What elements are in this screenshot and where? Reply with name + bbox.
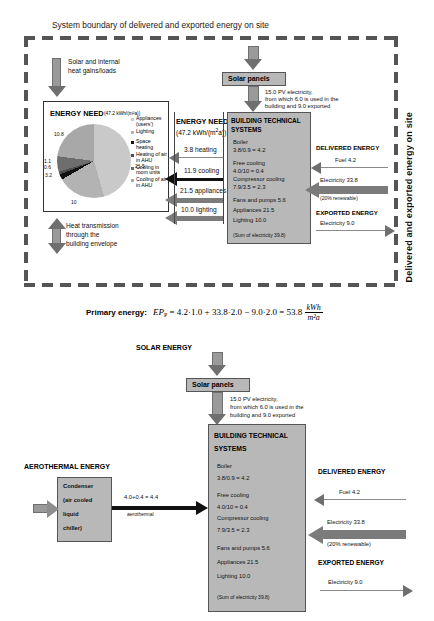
pv-note-line2: from which 6.0 is used in the <box>265 96 338 103</box>
primary-energy-unit-denominator: m²a <box>305 313 323 322</box>
exported-electricity-line-bottom <box>320 590 404 591</box>
bts-bottom-title-line2: SYSTEMS <box>214 445 246 452</box>
solar-input-arrow-head-icon <box>244 59 262 70</box>
gains-arrow-shaft <box>52 58 61 88</box>
bts-bottom-item-boiler-value: 3.8/0.9 = 4.2 <box>217 475 249 482</box>
bts-top-item-compressor-cooling-value: 7.9/3.5 = 2.3 <box>233 184 265 191</box>
energy-need-chart-title: ENERGY NEED <box>50 109 104 118</box>
solar-panels-label: Solar panels <box>228 75 270 82</box>
pv-note-line1-bottom: 15.0 PV electricity, <box>230 396 278 403</box>
flow-appliances-line <box>176 198 224 203</box>
delivered-renewable-label-top: (20% renewable) <box>320 195 358 201</box>
gains-label-line1: Solar and internal <box>68 58 120 66</box>
aerothermal-input-head-icon <box>47 500 59 518</box>
primary-energy-row: Primary energy: EPP = 4.2·1.0 + 33.8·2.0… <box>86 303 323 322</box>
boundary-left-edge <box>24 36 28 287</box>
delivered-renewable-label-bottom: (20% renewable) <box>327 541 371 548</box>
middle-column-right-rule <box>223 112 224 224</box>
exported-energy-title-bottom: EXPORTED ENERGY <box>318 559 384 566</box>
gains-arrow-head-icon <box>48 86 66 97</box>
delivered-electricity-head-icon-top <box>305 182 319 198</box>
heat-transmission-line2: through the <box>66 231 99 239</box>
bts-top-item-boiler-value: 3.8/0.9 = 4.2 <box>233 147 265 154</box>
condenser-line2: (air cooled <box>63 497 92 504</box>
gains-label-line2: heat gains/loads <box>68 67 116 75</box>
aerothermal-energy-title: AEROTHERMAL ENERGY <box>24 463 110 470</box>
system-boundary-title: System boundary of delivered and exporte… <box>52 20 269 30</box>
flow-cooling-line <box>176 178 224 181</box>
bts-bottom-item-appliances: Appliances 21.5 <box>217 559 258 566</box>
delivered-electricity-head-icon-bottom <box>308 526 323 544</box>
pv-note-line2-bottom: from which 6.0 is used in the <box>230 404 303 411</box>
legend-swatch-cooling-room <box>131 167 134 170</box>
flow-appliances-head-icon <box>165 193 177 207</box>
energy-need-label-line2: (47.2 kWh/(m2a)) <box>176 127 226 136</box>
aerothermal-flow-head-icon <box>196 501 208 515</box>
heat-transmission-head-down-icon <box>48 243 66 254</box>
flow-cooling-label: 11.9 cooling <box>184 167 219 175</box>
figure-canvas: System boundary of delivered and exporte… <box>0 0 434 621</box>
exported-electricity-line-top <box>316 230 386 231</box>
delivered-electricity-line-bottom <box>322 530 406 539</box>
delivered-fuel-label-top: Fuel 4.2 <box>335 157 356 164</box>
delivered-fuel-line-top <box>318 167 388 168</box>
legend-label-lighting: Lighting <box>136 129 154 135</box>
aerothermal-flow-line2: aerothermal <box>127 511 154 517</box>
flow-heating-line <box>176 157 224 158</box>
heat-transmission-line3: building envelope <box>66 240 117 248</box>
flow-lighting-line <box>176 216 224 221</box>
flow-cooling-head-icon <box>165 172 177 186</box>
condenser-line4: chiller) <box>63 525 82 532</box>
legend-label-space-heating: Space heating <box>136 139 169 151</box>
solar-panels-label-bottom: Solar panels <box>192 381 234 388</box>
primary-energy-symbol: EP <box>153 307 164 317</box>
bts-bottom-item-free-cooling: Free cooling <box>217 492 249 499</box>
bts-top-item-compressor-cooling: Compressor cooling <box>233 176 285 183</box>
legend-swatch-cooling-ahu <box>131 179 134 182</box>
bts-bottom-item-lighting: Lighting 10.0 <box>217 573 250 580</box>
solar-to-bts-head-icon <box>244 101 262 112</box>
flow-lighting-head-icon <box>165 211 177 225</box>
flow-heating-label: 3.8 heating <box>184 146 217 154</box>
primary-energy-formula: EPP = 4.2·1.0 + 33.8·2.0 − 9.0·2.0 = 53.… <box>153 303 323 322</box>
energy-need-label-line1: ENERGY NEED <box>176 117 228 126</box>
exported-electricity-head-icon-top <box>385 225 395 237</box>
bts-top-item-boiler: Boiler <box>233 139 248 146</box>
delivered-fuel-line-bottom <box>322 499 406 500</box>
bts-top-item-free-cooling-value: 4.0/10 = 0.4 <box>233 168 264 175</box>
solar-to-bts-shaft-bottom <box>212 392 223 416</box>
solar-energy-title: SOLAR ENERGY <box>136 344 192 351</box>
condenser-line1: Condenser <box>63 483 93 490</box>
bts-top-item-free-cooling: Free cooling <box>233 160 265 167</box>
delivered-electricity-label-bottom: Electricity 33.8 <box>327 519 365 526</box>
boundary-right-edge <box>394 36 398 287</box>
legend-item-cooling-room: Cooling in room units <box>131 165 169 177</box>
pv-note-line3: building and 9.0 exported <box>265 103 330 110</box>
heat-transmission-shaft <box>52 228 61 244</box>
bts-top-title-line1: BUILDING TECHNICAL <box>231 117 301 124</box>
primary-energy-unit-numerator: kWh <box>305 303 323 313</box>
delivered-electricity-line-top <box>318 186 388 194</box>
legend-swatch-appliances <box>131 118 134 121</box>
pie-label-0-6: 0.6 <box>44 164 51 170</box>
exported-electricity-head-icon-bottom <box>403 585 413 597</box>
heat-transmission-head-up-icon <box>48 218 66 229</box>
bts-bottom-title-line1: BUILDING TECHNICAL <box>214 432 288 439</box>
energy-need-pie <box>57 124 131 198</box>
delivered-fuel-head-icon-top <box>311 162 321 174</box>
legend-item-cooling-ahu: Cooling of air in AHU <box>131 177 169 189</box>
boundary-bottom-edge <box>24 283 398 287</box>
primary-energy-subscript: P <box>164 312 167 318</box>
vertical-boundary-label: Delivered and exported energy on site <box>404 112 414 282</box>
aerothermal-flow-line <box>112 506 198 510</box>
pv-note-line3-bottom: building and 9.0 exported <box>230 412 295 419</box>
legend-label-appliances: Appliances (users') <box>136 116 169 128</box>
exported-electricity-label-top: Electricity 9.0 <box>320 220 354 227</box>
bts-bottom-item-compressor-cooling: Compressor cooling <box>217 515 269 522</box>
legend-item-lighting: Lighting <box>131 129 169 135</box>
primary-energy-expression: = 4.2·1.0 + 33.8·2.0 − 9.0·2.0 = 53.8 <box>170 307 303 317</box>
heat-transmission-line1: Heat transmission <box>66 222 119 230</box>
solar-input-arrow-head-icon-bottom <box>208 365 226 376</box>
legend-swatch-lighting <box>131 131 134 134</box>
legend-swatch-space-heating <box>131 141 134 144</box>
